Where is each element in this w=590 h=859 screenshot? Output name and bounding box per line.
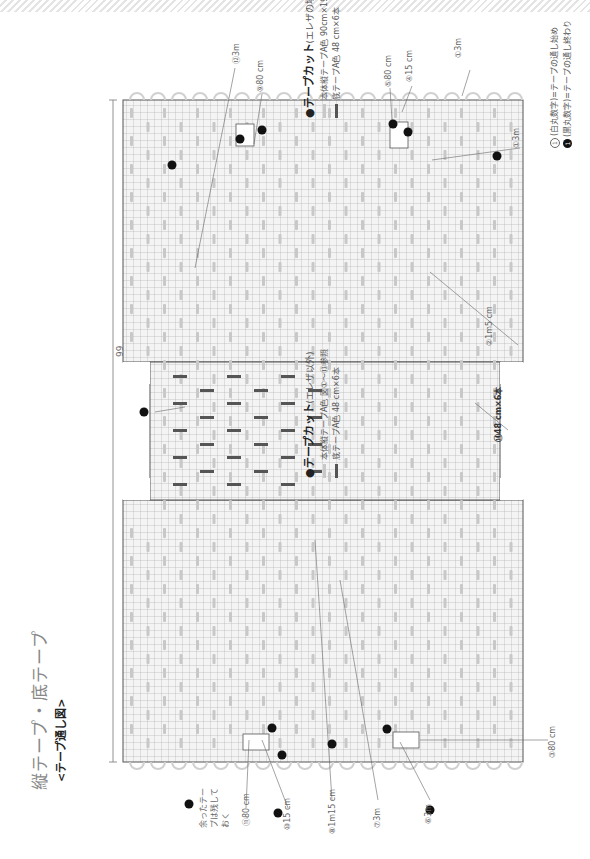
body-tape-segment (246, 458, 249, 468)
body-tape-segment (295, 584, 298, 594)
body-tape-segment (510, 206, 513, 216)
body-tape-segment (262, 640, 265, 650)
body-tape-segment (345, 122, 348, 132)
body-tape-segment (477, 710, 480, 720)
black-circle-icon (328, 740, 337, 749)
body-tape-segment (295, 360, 298, 370)
tape-loop (403, 93, 417, 100)
body-tape-segment (147, 234, 150, 244)
body-tape-segment (378, 710, 381, 720)
body-tape-segment (279, 150, 282, 160)
black-circle-icon (493, 152, 502, 161)
body-tape-segment (147, 318, 150, 328)
body-tape-segment (411, 318, 414, 328)
body-tape-segment (229, 248, 232, 258)
body-tape-segment (262, 556, 265, 566)
body-tape-segment (361, 724, 364, 734)
body-tape-segment (312, 290, 315, 300)
body-tape-segment (378, 122, 381, 132)
body-tape-segment (147, 542, 150, 552)
notch (123, 362, 150, 384)
end-marker-1 (493, 152, 502, 161)
body-tape-segment (196, 108, 199, 118)
body-tape-segment (427, 668, 430, 678)
body-tape-segment (312, 234, 315, 244)
body-tape-segment (345, 178, 348, 188)
body-tape-segment (295, 472, 298, 482)
bottom-tape-segment (200, 443, 214, 446)
black-circle-icon (236, 135, 245, 144)
body-tape-segment (295, 388, 298, 398)
black-circle-icon (278, 751, 287, 760)
cut-list-b-item-body: 本体縦テープA色 90cm×19本、80cm×4本、10cm×4本 (318, 0, 329, 118)
tape-loop (445, 93, 459, 100)
end-marker-7 (278, 751, 287, 760)
body-tape-segment (213, 738, 216, 748)
body-tape-segment (246, 374, 249, 384)
body-tape-segment (229, 164, 232, 174)
body-tape-segment (279, 318, 282, 328)
body-tape-segment (196, 416, 199, 426)
tape-loop (193, 93, 207, 100)
body-tape-segment (477, 598, 480, 608)
body-tape-segment (444, 234, 447, 244)
body-tape-segment (196, 276, 199, 286)
body-tape-segment (163, 472, 166, 482)
body-tape-segment (394, 248, 397, 258)
body-tape-segment (361, 136, 364, 146)
callout-7: ⑦3m (373, 808, 382, 828)
body-tape-segment (378, 402, 381, 412)
body-tape-segment (130, 248, 133, 258)
body-tape-segment (279, 458, 282, 468)
body-tape-segment (361, 248, 364, 258)
body-tape-segment (411, 402, 414, 412)
body-tape-segment (427, 276, 430, 286)
body-tape-segment (262, 220, 265, 230)
body-tape-segment (246, 514, 249, 524)
body-tape-segment (262, 528, 265, 538)
body-tape-segment (295, 612, 298, 622)
body-tape-segment (295, 640, 298, 650)
body-tape-segment (361, 276, 364, 286)
body-tape-segment (444, 206, 447, 216)
body-tape-segment (295, 220, 298, 230)
body-tape-segment (163, 696, 166, 706)
bottom-tape-segment (254, 389, 268, 392)
body-tape-segment (477, 570, 480, 580)
body-tape-segment (246, 178, 249, 188)
body-tape-segment (477, 654, 480, 664)
body-tape-segment (477, 262, 480, 272)
cut-list-a-item-body: 本体縦テープA色 図①〜⑬参照 (318, 349, 329, 478)
tape-loop (214, 93, 228, 100)
body-tape-segment (130, 612, 133, 622)
body-tape-segment (444, 458, 447, 468)
body-tape-segment (493, 724, 496, 734)
body-tape-segment (444, 290, 447, 300)
body-tape-segment (411, 346, 414, 356)
body-tape-segment (147, 150, 150, 160)
body-tape-segment (345, 514, 348, 524)
body-tape-segment (460, 500, 463, 510)
body-tape-segment (477, 346, 480, 356)
body-tape-segment (213, 290, 216, 300)
body-tape-segment (328, 164, 331, 174)
body-tape-segment (180, 178, 183, 188)
body-tape-segment (477, 402, 480, 412)
body-tape-segment (460, 724, 463, 734)
body-tape-segment (328, 332, 331, 342)
body-tape-segment (229, 500, 232, 510)
body-tape-segment (361, 584, 364, 594)
end-marker-13 (140, 408, 149, 417)
body-tape-segment (213, 206, 216, 216)
notch (123, 478, 150, 500)
body-tape-segment (378, 234, 381, 244)
black-circle-icon (140, 408, 149, 417)
body-tape-segment (147, 122, 150, 132)
body-tape-segment (279, 682, 282, 692)
body-tape-segment (213, 402, 216, 412)
body-tape-segment (460, 444, 463, 454)
body-tape-swatch (323, 464, 326, 478)
body-tape-segment (163, 136, 166, 146)
body-tape-segment (196, 500, 199, 510)
bottom-tape-segment (227, 483, 241, 486)
